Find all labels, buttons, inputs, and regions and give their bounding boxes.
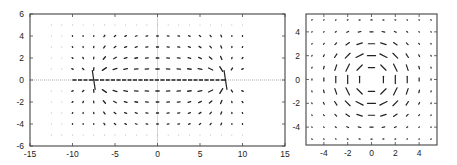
vector-arrow (406, 54, 408, 58)
vector-arrow (382, 32, 385, 33)
vector-arrow (393, 53, 398, 58)
vector-arrow (407, 127, 408, 128)
vector-arrow (346, 64, 350, 71)
vector-arrow (347, 31, 349, 32)
vector-arrow (323, 102, 324, 104)
vector-arrow (346, 43, 350, 45)
x-tick-label: -2 (344, 148, 352, 158)
vector-arrow (394, 31, 396, 32)
vector-arrow (335, 31, 336, 32)
vector-arrow (323, 55, 324, 57)
x-tick-label: -4 (320, 148, 328, 158)
vector-arrow (335, 102, 337, 106)
vector-arrow (419, 43, 420, 44)
vector-arrow (358, 127, 361, 128)
x-tick-label: 0 (369, 148, 374, 158)
vector-arrow (346, 114, 350, 116)
vector-arrow (357, 114, 362, 116)
vector-arrow (419, 66, 420, 69)
vector-arrow (335, 89, 337, 94)
y-tick-label: -4 (292, 122, 300, 132)
vector-arrow (381, 43, 386, 45)
vector-arrow (347, 127, 349, 128)
vector-arrow (393, 101, 398, 106)
vector-arrow (394, 127, 396, 128)
y-tick-label: -2 (292, 98, 300, 108)
vector-arrow (406, 65, 408, 70)
vector-arrow (406, 102, 408, 106)
vector-arrow (419, 115, 420, 116)
vector-arrow (323, 115, 324, 116)
vector-arrow (324, 127, 325, 128)
vector-arrow (406, 43, 408, 45)
vector-arrow (419, 55, 420, 57)
vector-arrow (335, 114, 337, 116)
vector-arrow (381, 114, 386, 116)
vector-arrow (394, 43, 398, 45)
vector-arrow (407, 31, 408, 32)
vector-arrow (356, 54, 363, 58)
vector-arrow (406, 89, 408, 94)
vector-arrow (324, 32, 325, 33)
vector-arrow (356, 102, 363, 106)
plot-frame (306, 14, 437, 145)
vector-arrow (394, 88, 398, 95)
vector-arrow (419, 90, 420, 93)
vector-arrow (380, 102, 387, 106)
vector-arrow (335, 43, 337, 45)
vector-arrow (324, 66, 325, 69)
vector-arrow (346, 88, 350, 95)
vector-arrow (419, 127, 420, 128)
vector-arrow (345, 53, 350, 58)
vector-arrow (345, 101, 350, 106)
vector-arrow (358, 32, 361, 33)
vector-arrow (419, 32, 420, 33)
right-plot-canvas: -4-2024-4-2024 (0, 0, 457, 165)
vector-arrow (406, 114, 408, 116)
vector-arrow (335, 54, 337, 58)
y-tick-label: 0 (295, 75, 300, 85)
vector-arrow (381, 65, 386, 70)
vector-arrow (382, 127, 385, 128)
vector-arrow (419, 102, 420, 104)
x-tick-label: 4 (417, 148, 422, 158)
vector-arrow (323, 43, 324, 44)
vector-arrow (335, 65, 337, 70)
vector-arrow (357, 65, 362, 70)
vector-arrow (357, 43, 362, 45)
vector-arrow (381, 89, 386, 94)
y-tick-label: 2 (295, 51, 300, 61)
vector-arrow (394, 114, 398, 116)
vector-arrow (335, 127, 336, 128)
right-quiver-plot: -4-2024-4-2024 (0, 0, 457, 165)
vector-arrow (324, 90, 325, 93)
vector-arrow (357, 89, 362, 94)
vector-arrow (380, 54, 387, 58)
vector-arrow (394, 64, 398, 71)
x-tick-label: 2 (393, 148, 398, 158)
y-tick-label: 4 (295, 27, 300, 37)
